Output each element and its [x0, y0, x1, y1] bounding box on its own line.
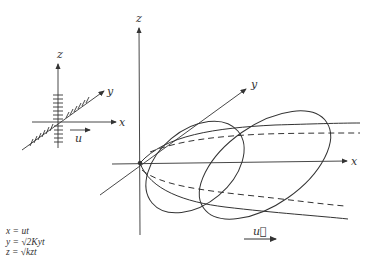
main-flow-label: u⃗ [253, 225, 267, 238]
main-x-label: x [351, 155, 358, 168]
source-point [138, 161, 142, 165]
y-coil-lower [30, 124, 53, 146]
cross-section-ellipse-2 [181, 89, 350, 241]
equation-x: x = ut [6, 226, 45, 237]
plume-diagram: z y x u z y x u⃗ [0, 0, 377, 272]
small-y-label: y [106, 85, 114, 98]
small-flow-label: u [75, 132, 82, 145]
equations-block: x = ut y = √2Kyt z = √kzt [6, 226, 45, 258]
small-z-label: z [56, 48, 63, 61]
upper-envelope [140, 123, 360, 163]
main-x-axis [112, 161, 347, 164]
equation-z: z = √kzt [6, 247, 45, 258]
main-z-label: z [135, 12, 142, 25]
diagram-canvas: z y x u z y x u⃗ x = ut [0, 0, 377, 272]
equation-y: y = √2Kyt [6, 237, 45, 248]
lower-dashed-edge [142, 170, 345, 206]
main-y-label: y [250, 78, 258, 91]
plume-envelope [128, 89, 360, 241]
main-axes [100, 28, 347, 235]
small-x-label: x [119, 116, 126, 129]
main-z-axis [139, 28, 140, 235]
cross-section-ellipse-1 [128, 103, 261, 232]
y-coil-upper [66, 97, 89, 118]
z-coil-upper [53, 95, 63, 119]
lower-envelope [140, 163, 348, 219]
small-axes-diagram [22, 64, 116, 150]
small-y-axis [22, 91, 104, 150]
main-y-axis [100, 89, 246, 195]
z-coil-lower [54, 126, 63, 142]
